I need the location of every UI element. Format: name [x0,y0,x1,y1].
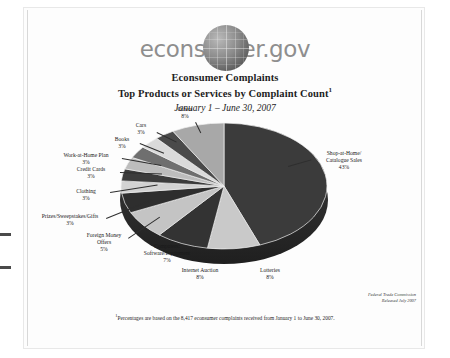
slice-label-others-name: Others [178,106,193,112]
slice-label-credit-cards: Credit Cards 3% [62,166,120,180]
slice-label-books-pct: 3% [100,143,144,150]
slice-label-clothing-name: Clothing [76,188,96,194]
slice-label-shop-at-home-name: Shop-at-Home/ [327,150,362,156]
slice-label-cars: Cars 3% [119,122,163,136]
slice-label-computers-name: Computers: [154,243,180,249]
slice-label-shop-at-home-catalogue-sales: Shop-at-Home/ Catalogue Sales 43% [306,150,382,171]
logo-wordmark: econsumer.gov [140,28,310,70]
slice-label-clothing-pct: 3% [62,195,110,202]
slice-label-internet-auction-name: Internet Auction [182,267,219,273]
pie-chart: Others 8% Cars 3% Books 3% Work-at-Home … [24,110,424,295]
page-title: Econsumer Complaints [0,71,450,84]
slice-label-computers-name2: Software/Equipment [124,250,210,257]
slice-label-cars-pct: 3% [119,129,163,136]
slice-label-clothing: Clothing 3% [62,188,110,202]
source-release-date: Released July 2007 [368,298,416,304]
slice-label-prizes-sweepstakes-gifts-pct: 3% [27,220,113,227]
slice-label-credit-cards-pct: 3% [62,173,120,180]
slice-label-work-at-home-plan: Work-at-Home Plan 3% [50,152,122,166]
footnote-text: Percentages are based on the 8,417 econs… [118,315,335,321]
slice-label-shop-at-home-name2: Catalogue Sales [306,157,382,164]
slice-label-others: Others 8% [155,106,215,120]
slice-label-credit-cards-name: Credit Cards [77,166,105,172]
slice-label-computers-software-equipment: Computers: Software/Equipment 7% [124,243,210,264]
slice-label-lotteries-name: Lotteries [260,267,280,273]
footnote: 1Percentages are based on the 8,417 econ… [0,313,450,321]
source-attribution: Federal Trade Commission Released July 2… [368,292,416,304]
page-subtitle-heading-text: Top Products or Services by Complaint Co… [118,88,329,99]
scan-artifact-bar-top [0,233,11,236]
slice-label-books-name: Books [115,136,129,142]
title-footnote-marker: 1 [329,86,333,94]
slice-label-computers-pct: 7% [124,257,210,264]
slice-label-others-pct: 8% [155,113,215,120]
slice-label-prizes-sweepstakes-gifts-name: Prizes/Sweepstakes/Gifts [42,213,99,219]
slice-label-cars-name: Cars [136,122,146,128]
slice-label-internet-auction-pct: 8% [165,274,235,281]
econsumer-logo: econsumer.gov [0,28,450,70]
scanned-page-backdrop: econsumer.gov Econsumer Complaints Top P… [0,0,450,358]
slice-label-lotteries-pct: 8% [242,274,298,281]
slice-label-lotteries: Lotteries 8% [242,267,298,281]
slice-label-prizes-sweepstakes-gifts: Prizes/Sweepstakes/Gifts 3% [27,213,113,227]
scan-artifact-bar-bottom [0,266,11,269]
slice-label-work-at-home-plan-name: Work-at-Home Plan [63,152,108,158]
globe-icon [203,25,249,71]
slice-label-work-at-home-plan-pct: 3% [50,159,122,166]
slice-label-foreign-money-offers-name: Foreign Money [87,232,122,238]
slice-label-books: Books 3% [100,136,144,150]
slice-label-internet-auction: Internet Auction 8% [165,267,235,281]
logo-suffix: .gov [262,36,310,62]
chart-title-block: Econsumer Complaints Top Products or Ser… [0,71,450,115]
slice-label-shop-at-home-pct: 43% [306,164,382,171]
page-subtitle-heading: Top Products or Services by Complaint Co… [0,84,450,100]
